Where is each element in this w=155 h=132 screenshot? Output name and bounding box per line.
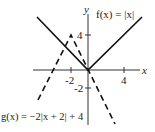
y-axis-label: y [84, 4, 89, 15]
x-tick-label-4: 4 [121, 75, 127, 86]
x-tick-label-neg2: -2 [65, 75, 74, 86]
f-graph-line [37, 17, 142, 70]
x-axis-label: x [142, 65, 147, 76]
f-function-label: f(x) = |x| [96, 9, 134, 20]
g-function-label: g(x) = −2|x + 2| + 4 [1, 112, 83, 123]
y-tick-label-4: 4 [77, 30, 83, 41]
y-tick-label-neg2: -2 [74, 83, 83, 94]
